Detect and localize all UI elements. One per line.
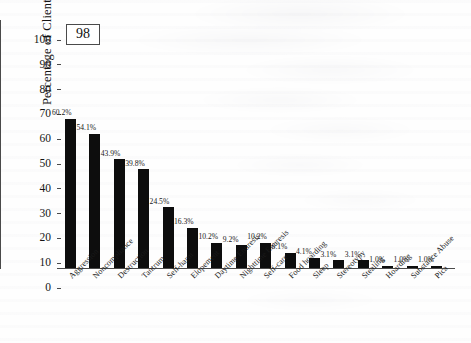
y-axis-tick-mark [57, 288, 61, 289]
bar-slot: 60.2% [59, 20, 83, 268]
y-axis-tick-label: 20 [40, 229, 52, 246]
bar-slot: 1.0% [401, 20, 425, 268]
y-axis-line [0, 20, 1, 269]
bar-slot: 43.9% [108, 20, 132, 268]
bar-slot: 3.1% [352, 20, 376, 268]
bar [65, 119, 76, 268]
y-axis-tick-label: 30 [40, 205, 52, 222]
bar-slot: 16.3% [181, 20, 205, 268]
bar-slot: 1.0% [376, 20, 400, 268]
y-axis-tick-label: 10 [40, 254, 52, 271]
bar-slot: 9.2% [230, 20, 254, 268]
y-axis-tick-label: 100 [34, 31, 51, 48]
y-axis-tick-label: 50 [40, 155, 52, 172]
bar-slot: 10.2% [205, 20, 229, 268]
figure-page: Percentage of Clients 98 010203040506070… [0, 0, 471, 343]
bar-slot: 1.0% [425, 20, 449, 268]
bar-slot: 3.1% [327, 20, 351, 268]
y-axis-tick-label: 0 [45, 279, 51, 296]
y-axis-tick-label: 60 [40, 130, 52, 147]
bar-slot: 4.1% [303, 20, 327, 268]
plot-area: 98 0102030405060708090100 60.2%54.1%43.9… [57, 20, 455, 268]
bar-slot: 10.2% [254, 20, 278, 268]
bar-slot: 39.8% [132, 20, 156, 268]
y-axis-tick-label: 90 [40, 56, 52, 73]
bar-slot: 54.1% [83, 20, 107, 268]
y-axis-tick-label: 80 [40, 81, 52, 98]
y-axis-tick-label: 70 [40, 105, 52, 122]
bar-slot: 24.5% [157, 20, 181, 268]
y-axis-tick-label: 40 [40, 180, 52, 197]
